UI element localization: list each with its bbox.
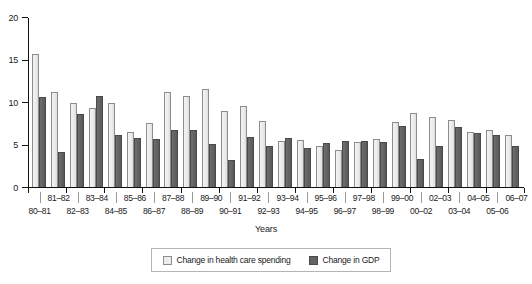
bar-dark [190, 130, 197, 187]
x-axis-label: 95–96 [315, 194, 337, 203]
bar-light [505, 135, 512, 187]
bar-group [429, 18, 448, 187]
x-axis-label: 87–88 [162, 194, 184, 203]
y-axis-tick-label: 0 [13, 183, 18, 192]
light-swatch-icon [163, 256, 172, 265]
x-label-separator [192, 192, 193, 203]
x-label-separator [154, 192, 155, 203]
x-label-separator [459, 192, 460, 203]
x-axis-label: 97–98 [353, 194, 375, 203]
y-axis-tick: 15 [22, 60, 28, 61]
x-axis-label: 06–07 [505, 194, 527, 203]
legend-item-health-care-spending: Change in health care spending [163, 256, 291, 265]
x-axis-label: 83–84 [86, 194, 108, 203]
bar-group [467, 18, 486, 187]
x-label-separator [78, 192, 79, 203]
x-axis-label: 98–99 [372, 207, 394, 216]
bar-light [202, 89, 209, 187]
bar-light [297, 140, 304, 187]
bar-group [70, 18, 89, 187]
legend-label: Change in GDP [323, 256, 380, 265]
bar-light [221, 111, 228, 187]
x-label-separator [421, 192, 422, 203]
bar-series-container [29, 18, 524, 187]
bar-dark [209, 144, 216, 187]
bar-dark [96, 96, 103, 187]
x-axis-label: 80–81 [28, 207, 50, 216]
legend-item-gdp: Change in GDP [309, 256, 380, 265]
bar-dark [153, 139, 160, 187]
bar-group [410, 18, 429, 187]
bar-group [297, 18, 316, 187]
x-axis-label: 86–87 [143, 207, 165, 216]
bar-light [354, 142, 361, 187]
x-axis-label: 84–85 [105, 207, 127, 216]
bar-dark [474, 133, 481, 187]
bar-group [392, 18, 411, 187]
x-label-separator [497, 192, 498, 203]
bar-light [467, 132, 474, 187]
bar-dark [361, 141, 368, 187]
x-axis-label: 96–97 [334, 207, 356, 216]
bar-group [127, 18, 146, 187]
y-axis-tick: 5 [22, 145, 28, 146]
x-axis-tick-labels: 80–8182–8384–8586–8788–8990–9192–9394–95… [28, 192, 524, 222]
bar-dark [380, 142, 387, 187]
y-axis-tick-label: 5 [13, 141, 18, 150]
bar-group [146, 18, 165, 187]
plot-area: 05101520 [28, 18, 524, 188]
bar-group [32, 18, 51, 187]
bar-group [240, 18, 259, 187]
x-axis-title: Years [0, 224, 532, 234]
bar-dark [77, 114, 84, 187]
x-axis-label: 03–04 [448, 207, 470, 216]
bar-group [183, 18, 202, 187]
bar-light [32, 54, 39, 188]
bar-dark [247, 137, 254, 187]
bar-group [335, 18, 354, 187]
bar-light [127, 132, 134, 187]
bar-light [335, 150, 342, 187]
bar-light [70, 103, 77, 188]
x-axis-label: 00–02 [410, 207, 432, 216]
x-axis-label: 81–82 [48, 194, 70, 203]
bar-group [505, 18, 524, 187]
bar-light [373, 139, 380, 187]
bar-dark [323, 143, 330, 187]
bar-light [410, 113, 417, 187]
bar-dark [342, 141, 349, 187]
bar-dark [115, 135, 122, 187]
bar-light [164, 92, 171, 187]
bar-light [108, 103, 115, 187]
x-axis-label: 91–92 [238, 194, 260, 203]
y-axis-tick: 10 [22, 102, 28, 103]
x-axis-label: 89–90 [200, 194, 222, 203]
x-label-separator [268, 192, 269, 203]
bar-light [448, 120, 455, 187]
bar-group [354, 18, 373, 187]
bar-dark [455, 127, 462, 187]
x-label-separator [230, 192, 231, 203]
bar-group [259, 18, 278, 187]
bar-light [146, 123, 153, 187]
bar-light [316, 146, 323, 187]
x-axis-label: 93–94 [276, 194, 298, 203]
bar-dark [417, 159, 424, 187]
bar-dark [512, 146, 519, 187]
bar-dark [58, 152, 65, 187]
dark-swatch-icon [309, 256, 318, 265]
x-axis-label: 88–89 [181, 207, 203, 216]
x-axis-label: 94–95 [296, 207, 318, 216]
legend-label: Change in health care spending [177, 256, 291, 265]
bar-group [373, 18, 392, 187]
x-label-separator [345, 192, 346, 203]
bar-light [392, 122, 399, 187]
bar-group [51, 18, 70, 187]
bar-group [164, 18, 183, 187]
bar-light [51, 92, 58, 187]
bar-light [486, 130, 493, 187]
x-label-separator [307, 192, 308, 203]
x-label-separator [383, 192, 384, 203]
bar-group [316, 18, 335, 187]
y-axis-tick: 20 [22, 17, 28, 18]
